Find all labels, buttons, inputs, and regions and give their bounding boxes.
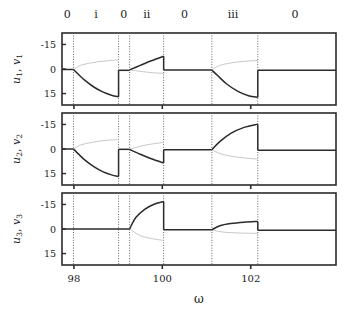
curve-u1-branch-ii-upper bbox=[130, 56, 164, 70]
region-label-3: ii bbox=[143, 8, 151, 21]
y-tick-label-0-panel-2: 0 bbox=[50, 144, 56, 155]
panel-frame-2 bbox=[62, 113, 336, 185]
curve-v2-branch-i-upper bbox=[73, 140, 118, 149]
y-tick-label-0-panel-1: 0 bbox=[50, 64, 56, 75]
y-axis-label-panel-2: u2, v2 bbox=[10, 134, 24, 164]
region-label-1: i bbox=[94, 8, 98, 21]
y-tick-label-15-panel-2: -15 bbox=[41, 119, 56, 130]
region-label-4: 0 bbox=[181, 8, 188, 21]
curve-u2-branch-ii-lower bbox=[130, 149, 164, 162]
bifurcation-figure: 0i0ii0iii0150-15u1, v1150-15u2, v2150-15… bbox=[0, 0, 354, 316]
y-tick-label-0-panel-3: 0 bbox=[50, 224, 56, 235]
curve-u2-branch-i-lower bbox=[73, 149, 118, 176]
panel-frame-1 bbox=[62, 33, 336, 105]
y-tick-label--15-panel-3: 15 bbox=[44, 248, 56, 259]
x-tick-label-100: 100 bbox=[153, 273, 172, 284]
region-label-0: 0 bbox=[64, 8, 71, 21]
curve-u2-branch-iii-upper bbox=[212, 124, 258, 150]
curve-v3-branch-ii-lower bbox=[130, 229, 164, 240]
x-tick-label-102: 102 bbox=[241, 273, 260, 284]
region-label-6: 0 bbox=[291, 8, 298, 21]
curve-v1-branch-iii-upper bbox=[212, 60, 258, 70]
curve-v1-branch-i-upper bbox=[73, 60, 118, 70]
x-axis-label: ω bbox=[194, 292, 204, 306]
region-label-2: 0 bbox=[120, 8, 127, 21]
curve-u1-branch-iii-lower bbox=[212, 70, 258, 97]
y-tick-label--15-panel-2: 15 bbox=[44, 168, 56, 179]
curve-v3-branch-iii-lower bbox=[212, 230, 258, 234]
y-tick-label--15-panel-1: 15 bbox=[44, 88, 56, 99]
curve-v2-branch-ii-upper bbox=[130, 142, 164, 149]
y-tick-label-15-panel-1: -15 bbox=[41, 39, 56, 50]
curve-u1-branch-i-lower bbox=[73, 69, 118, 96]
curve-u3-branch-iii-upper bbox=[212, 221, 258, 229]
region-label-5: iii bbox=[228, 8, 239, 21]
curve-u3-branch-ii-upper bbox=[130, 202, 164, 229]
curve-v2-branch-iii-lower bbox=[212, 150, 258, 159]
y-axis-label-panel-1: u1, v1 bbox=[10, 54, 24, 84]
y-axis-label-panel-3: u3, v3 bbox=[10, 214, 24, 244]
x-tick-label-98: 98 bbox=[68, 273, 81, 284]
curve-v1-branch-ii-lower bbox=[130, 70, 164, 74]
figure-canvas: 0i0ii0iii0150-15u1, v1150-15u2, v2150-15… bbox=[0, 0, 354, 316]
y-tick-label-15-panel-3: -15 bbox=[41, 199, 56, 210]
